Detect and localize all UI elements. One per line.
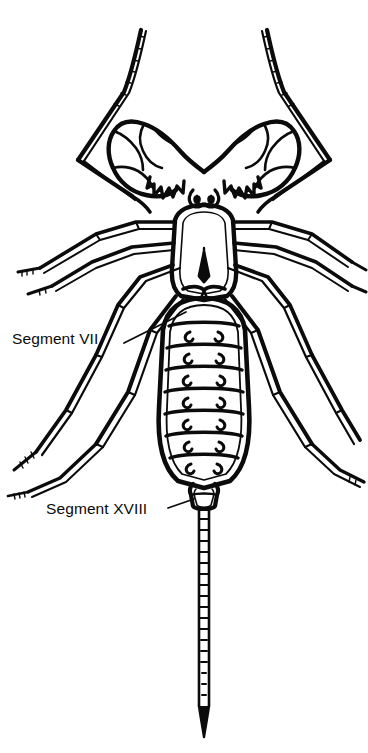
pedipalp-right [204, 122, 299, 198]
flagellum [199, 508, 209, 737]
tergite-markings [183, 332, 225, 474]
callout-label-segment-xviii: Segment XVIII [46, 501, 147, 517]
leader-line-segment-xviii [168, 499, 194, 508]
walking-legs-left [8, 222, 183, 499]
carapace [172, 205, 236, 300]
figure-root: Segment VII Segment XVIII [0, 0, 368, 753]
callout-label-segment-vii: Segment VII [12, 331, 98, 347]
opisthosoma [159, 298, 250, 488]
whip-scorpion-illustration [0, 0, 368, 753]
pedipalp-left [109, 122, 204, 198]
